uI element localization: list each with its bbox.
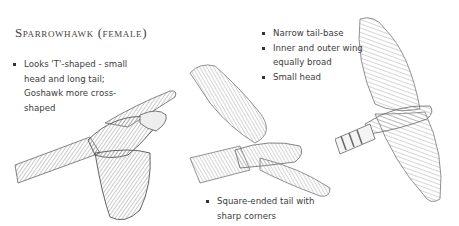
page-title: Sparrowhawk (female) xyxy=(15,25,147,41)
sparrowhawk-side-illustration xyxy=(10,85,185,225)
sparrowhawk-tilted-illustration xyxy=(180,58,340,198)
bird-side-icon xyxy=(10,85,185,225)
note-square-tail: Square-ended tail with sharp corners xyxy=(206,194,326,223)
notes-bottom: Square-ended tail with sharp corners xyxy=(206,194,326,223)
sparrowhawk-overhead-illustration xyxy=(335,14,455,214)
bird-overhead-icon xyxy=(335,14,455,214)
bird-tilted-icon xyxy=(180,58,340,198)
